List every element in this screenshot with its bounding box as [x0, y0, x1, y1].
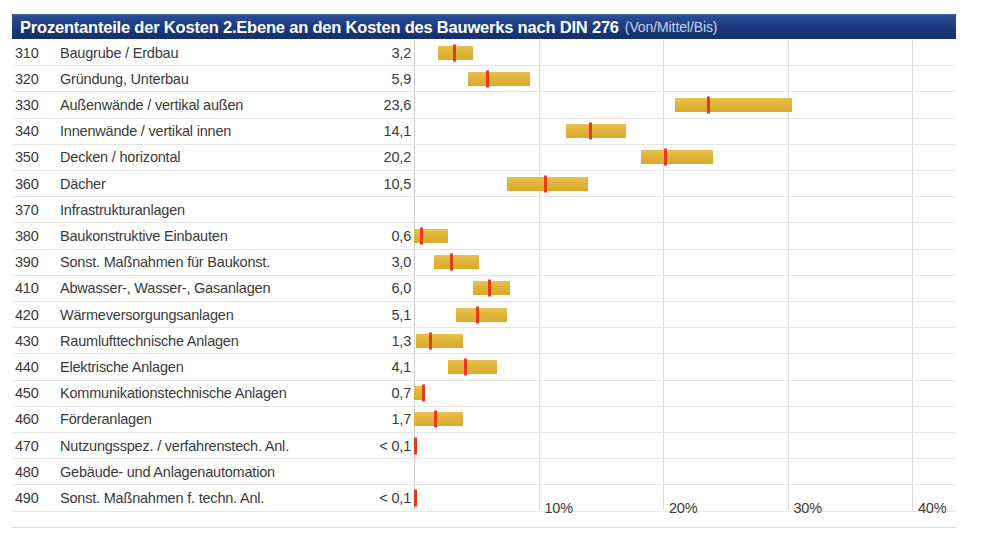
- range-bar: [448, 360, 498, 374]
- row-label: Infrastrukturanlagen: [60, 202, 185, 218]
- row-value: 1,7: [391, 411, 411, 427]
- range-bar: [414, 229, 448, 243]
- mean-marker: [664, 149, 667, 166]
- row-value: 3,2: [391, 45, 411, 61]
- mean-marker: [414, 437, 417, 454]
- row-code: 310: [15, 45, 39, 61]
- row-value: 14,1: [384, 123, 411, 139]
- range-bar: [641, 150, 713, 164]
- table-row[interactable]: 430Raumlufttechnische Anlagen1,3: [12, 328, 956, 354]
- table-row[interactable]: 460Förderanlagen1,7: [12, 407, 956, 433]
- x-tick-label-10: 10%: [545, 500, 573, 516]
- table-row[interactable]: 370Infrastrukturanlagen: [12, 197, 956, 223]
- row-code: 450: [15, 385, 39, 401]
- row-label: Baukonstruktive Einbauten: [60, 228, 228, 244]
- row-value: 0,7: [391, 385, 411, 401]
- x-axis: 10%20%30%40%: [12, 500, 956, 530]
- row-value: 20,2: [384, 149, 411, 165]
- table-row[interactable]: 420Wärmeversorgungsanlagen5,1: [12, 302, 956, 328]
- range-bar: [416, 334, 462, 348]
- mean-marker: [422, 385, 425, 402]
- range-bar: [566, 124, 626, 138]
- mean-marker: [476, 306, 479, 323]
- table-row[interactable]: 410Abwasser-, Wasser-, Gasanlagen6,0: [12, 276, 956, 302]
- row-label: Gebäude- und Anlagenautomation: [60, 464, 275, 480]
- mean-marker: [450, 254, 453, 271]
- axis-baseline: [12, 527, 956, 528]
- row-value: 10,5: [384, 176, 411, 192]
- table-row[interactable]: 440Elektrische Anlagen4,1: [12, 354, 956, 380]
- row-value: < 0,1: [379, 438, 411, 454]
- range-bar: [468, 72, 530, 86]
- row-code: 370: [15, 202, 39, 218]
- row-label: Nutzungsspez. / verfahrenstech. Anl.: [60, 438, 289, 454]
- row-value: 5,9: [391, 71, 411, 87]
- chart-rows-area: 310Baugrube / Erdbau3,2320Gründung, Unte…: [12, 40, 956, 510]
- row-label: Sonst. Maßnahmen für Baukonst.: [60, 254, 270, 270]
- mean-marker: [488, 280, 491, 297]
- mean-marker: [464, 358, 467, 375]
- mean-marker: [486, 70, 489, 87]
- range-bar: [675, 98, 792, 112]
- row-label: Elektrische Anlagen: [60, 359, 184, 375]
- chart-title: Prozentanteile der Kosten 2.Ebene an den…: [20, 18, 619, 37]
- table-row[interactable]: 330Außenwände / vertikal außen23,6: [12, 92, 956, 118]
- mean-marker: [707, 96, 710, 113]
- table-row[interactable]: 470Nutzungsspez. / verfahrenstech. Anl.<…: [12, 433, 956, 459]
- chart-title-subtitle: (Von/Mittel/Bis): [625, 19, 718, 35]
- x-tick-label-20: 20%: [669, 500, 697, 516]
- table-row[interactable]: 390Sonst. Maßnahmen für Baukonst.3,0: [12, 250, 956, 276]
- cost-percentage-chart: Prozentanteile der Kosten 2.Ebene an den…: [0, 0, 1008, 551]
- row-value: 5,1: [391, 307, 411, 323]
- mean-marker: [453, 44, 456, 61]
- row-code: 430: [15, 333, 39, 349]
- row-code: 480: [15, 464, 39, 480]
- row-value: 1,3: [391, 333, 411, 349]
- table-row[interactable]: 480Gebäude- und Anlagenautomation: [12, 459, 956, 485]
- row-label: Decken / horizontal: [60, 149, 180, 165]
- row-code: 330: [15, 97, 39, 113]
- range-bar: [456, 308, 507, 322]
- row-label: Dächer: [60, 176, 106, 192]
- row-code: 390: [15, 254, 39, 270]
- row-code: 410: [15, 280, 39, 296]
- row-code: 340: [15, 123, 39, 139]
- row-label: Abwasser-, Wasser-, Gasanlagen: [60, 280, 270, 296]
- table-row[interactable]: 310Baugrube / Erdbau3,2: [12, 40, 956, 66]
- row-label: Baugrube / Erdbau: [60, 45, 178, 61]
- row-label: Förderanlagen: [60, 411, 152, 427]
- range-bar: [507, 177, 588, 191]
- row-code: 360: [15, 176, 39, 192]
- row-code: 440: [15, 359, 39, 375]
- row-code: 350: [15, 149, 39, 165]
- row-code: 380: [15, 228, 39, 244]
- row-code: 420: [15, 307, 39, 323]
- x-tick-label-40: 40%: [918, 500, 946, 516]
- row-value: 6,0: [391, 280, 411, 296]
- row-label: Innenwände / vertikal innen: [60, 123, 231, 139]
- range-bar: [434, 255, 479, 269]
- row-code: 320: [15, 71, 39, 87]
- row-value: 0,6: [391, 228, 411, 244]
- table-row[interactable]: 350Decken / horizontal20,2: [12, 145, 956, 171]
- row-label: Raumlufttechnische Anlagen: [60, 333, 239, 349]
- x-tick-label-30: 30%: [794, 500, 822, 516]
- row-label: Wärmeversorgungsanlagen: [60, 307, 234, 323]
- row-value: 23,6: [384, 97, 411, 113]
- chart-title-bar: Prozentanteile der Kosten 2.Ebene an den…: [12, 14, 956, 39]
- table-row[interactable]: 340Innenwände / vertikal innen14,1: [12, 119, 956, 145]
- range-bar: [414, 412, 463, 426]
- mean-marker: [434, 411, 437, 428]
- table-row[interactable]: 360Dächer10,5: [12, 171, 956, 197]
- table-row[interactable]: 320Gründung, Unterbau5,9: [12, 66, 956, 92]
- mean-marker: [429, 332, 432, 349]
- row-code: 460: [15, 411, 39, 427]
- table-row[interactable]: 380Baukonstruktive Einbauten0,6: [12, 223, 956, 249]
- row-label: Kommunikationstechnische Anlagen: [60, 385, 287, 401]
- mean-marker: [420, 227, 423, 244]
- row-value: 3,0: [391, 254, 411, 270]
- mean-marker: [589, 123, 592, 140]
- row-code: 470: [15, 438, 39, 454]
- table-row[interactable]: 450Kommunikationstechnische Anlagen0,7: [12, 381, 956, 407]
- row-label: Außenwände / vertikal außen: [60, 97, 243, 113]
